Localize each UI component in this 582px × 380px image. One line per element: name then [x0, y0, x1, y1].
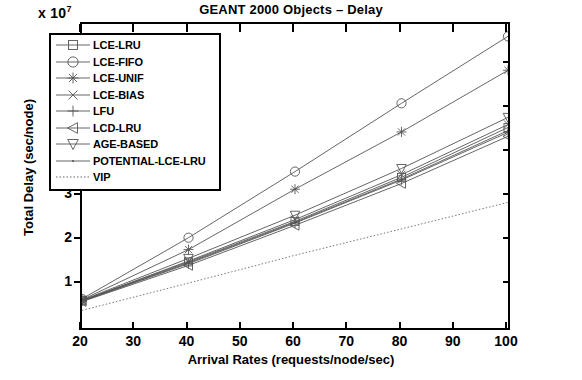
legend-marker-none-icon [53, 169, 93, 185]
x-tick-mark [79, 24, 81, 32]
x-tick-mark [79, 322, 81, 330]
legend-item-lce-lru[interactable]: LCE-LRU [53, 37, 216, 54]
x-tick-label: 100 [476, 333, 536, 349]
legend-label: LFU [93, 105, 114, 117]
x-tick-mark [399, 24, 401, 32]
legend-item-vip[interactable]: VIP [53, 169, 216, 186]
legend-label: POTENTIAL-LCE-LRU [93, 155, 206, 167]
legend-marker-circle-icon [53, 54, 93, 70]
chart-title: GEANT 2000 Objects – Delay [0, 2, 582, 17]
legend-label: AGE-BASED [93, 138, 158, 150]
legend-label: LCE-LRU [93, 39, 141, 51]
chart-figure: x 107 GEANT 2000 Objects – Delay 1234562… [0, 0, 582, 380]
legend-label: LCE-UNIF [93, 72, 144, 84]
legend: LCE-LRULCE-FIFOLCE-UNIFLCE-BIASLFULCD-LR… [49, 33, 221, 191]
y-tick-mark [74, 237, 81, 239]
x-tick-mark [505, 24, 507, 32]
x-tick-label: 50 [210, 333, 270, 349]
y-tick-mark [503, 193, 510, 195]
x-tick-label: 20 [50, 333, 110, 349]
legend-label: LCD-LRU [93, 122, 141, 134]
x-tick-mark [239, 24, 241, 32]
x-tick-mark [132, 322, 134, 330]
x-tick-mark [292, 24, 294, 32]
legend-item-lcd-lru[interactable]: LCD-LRU [53, 120, 216, 137]
y-tick-mark [503, 281, 510, 283]
legend-item-age-based[interactable]: AGE-BASED [53, 136, 216, 153]
y-axis-label: Total Delay (sec/node) [21, 48, 36, 288]
y-tick-mark [503, 149, 510, 151]
legend-label: VIP [93, 171, 110, 183]
legend-item-lfu[interactable]: LFU [53, 103, 216, 120]
x-tick-label: 80 [370, 333, 430, 349]
legend-label: LCE-FIFO [93, 56, 143, 68]
legend-item-potential-lce-lru[interactable]: POTENTIAL-LCE-LRU [53, 153, 216, 170]
y-tick-mark [503, 237, 510, 239]
x-tick-mark [505, 322, 507, 330]
legend-marker-xcross-icon [53, 87, 93, 103]
legend-item-lce-fifo[interactable]: LCE-FIFO [53, 54, 216, 71]
x-axis-label: Arrival Rates (requests/node/sec) [0, 352, 582, 367]
x-tick-mark [345, 24, 347, 32]
x-tick-mark [345, 322, 347, 330]
x-tick-mark [399, 322, 401, 330]
legend-marker-dot-icon [53, 153, 93, 169]
x-tick-mark [132, 24, 134, 32]
legend-item-lce-bias[interactable]: LCE-BIAS [53, 87, 216, 104]
x-tick-label: 70 [316, 333, 376, 349]
y-tick-mark [503, 61, 510, 63]
x-tick-label: 30 [103, 333, 163, 349]
x-tick-label: 60 [263, 333, 323, 349]
y-tick-mark [74, 193, 81, 195]
legend-marker-dtri-icon [53, 136, 93, 152]
x-tick-label: 40 [157, 333, 217, 349]
legend-marker-square-icon [53, 37, 93, 53]
legend-item-lce-unif[interactable]: LCE-UNIF [53, 70, 216, 87]
x-tick-mark [452, 24, 454, 32]
x-tick-mark [452, 322, 454, 330]
x-tick-label: 90 [423, 333, 483, 349]
y-tick-label: 2 [0, 229, 72, 245]
x-tick-mark [186, 24, 188, 32]
y-tick-label: 1 [0, 273, 72, 289]
y-tick-mark [503, 105, 510, 107]
legend-label: LCE-BIAS [93, 89, 144, 101]
x-tick-mark [292, 322, 294, 330]
legend-marker-plus-icon [53, 103, 93, 119]
x-tick-mark [239, 322, 241, 330]
legend-marker-ltri-icon [53, 120, 93, 136]
x-tick-mark [186, 322, 188, 330]
y-tick-mark [74, 281, 81, 283]
legend-marker-asterisk-icon [53, 70, 93, 86]
